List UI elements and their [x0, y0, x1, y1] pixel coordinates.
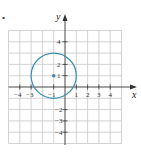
y-tick-label: 2	[57, 61, 61, 69]
x-tick-label: 1	[75, 91, 79, 99]
coordinate-plane-diagram: •	[0, 0, 141, 154]
y-axis-arrow-icon	[63, 14, 68, 21]
y-tick-label: 4	[57, 38, 61, 46]
center-point	[52, 74, 56, 78]
y-tick-label: 1	[57, 72, 61, 80]
x-axis-label: x	[131, 89, 137, 100]
y-tick-label: −3	[55, 117, 63, 125]
x-tick-label: 4	[109, 91, 113, 99]
x-tick-label: −3	[26, 91, 34, 99]
y-tick-label: −2	[55, 106, 63, 114]
x-tick-label: 3	[97, 91, 101, 99]
bullet-marker: •	[2, 13, 5, 23]
x-tick-label: 2	[86, 91, 90, 99]
x-tick-label: −4	[14, 91, 22, 99]
axes	[9, 18, 134, 145]
y-axis-label: y	[55, 11, 61, 22]
y-tick-label: −4	[55, 129, 63, 137]
